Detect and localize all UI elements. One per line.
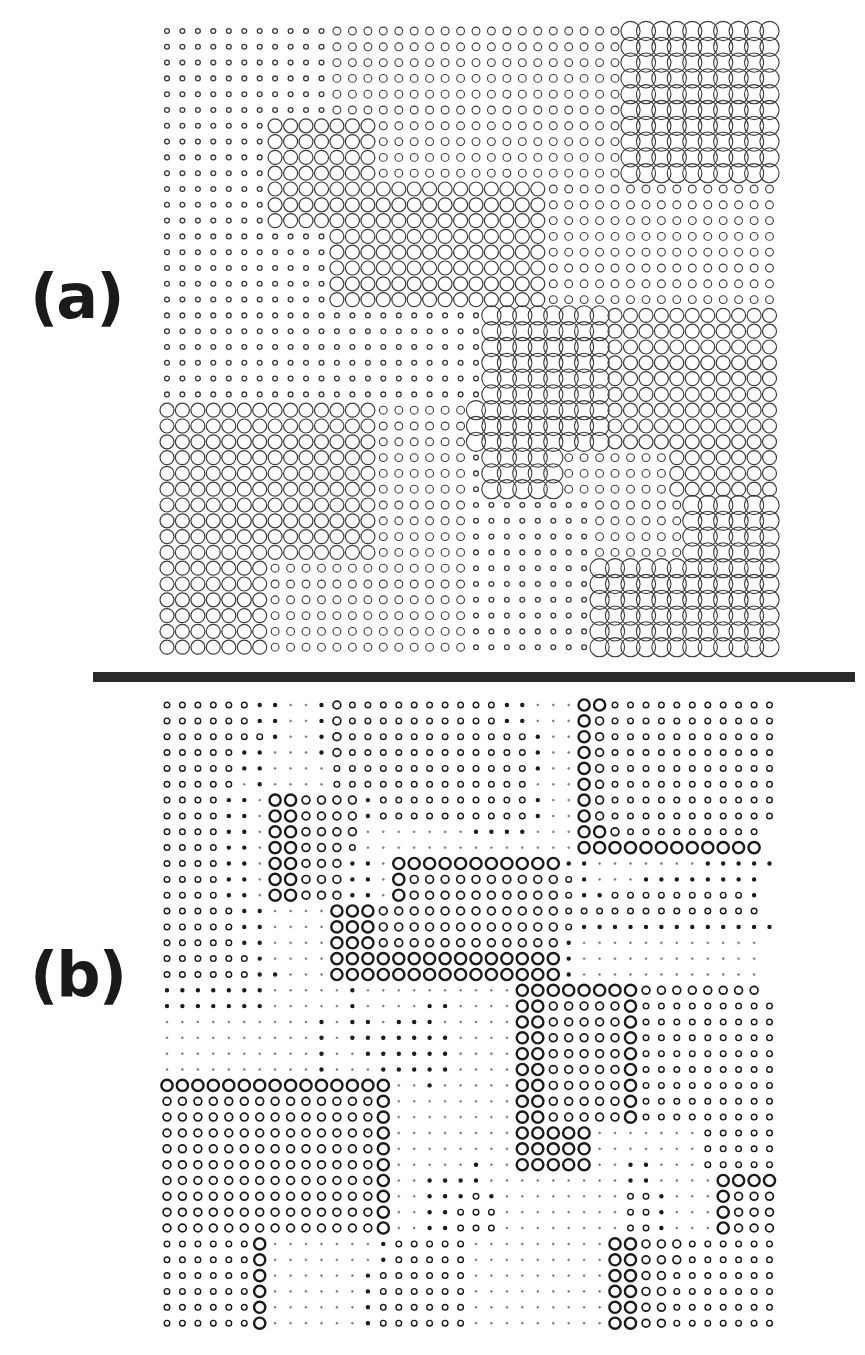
grid-circle <box>537 847 539 849</box>
grid-circle <box>474 629 479 634</box>
grid-circle <box>271 628 279 636</box>
grid-circle <box>596 549 604 557</box>
grid-circle <box>253 403 267 417</box>
grid-circle <box>473 782 479 788</box>
grid-circle <box>751 782 757 788</box>
grid-circle <box>491 847 493 849</box>
grid-circle <box>596 1066 604 1074</box>
grid-circle <box>333 844 341 852</box>
grid-circle <box>720 750 726 756</box>
grid-circle <box>290 926 292 928</box>
grid-circle <box>351 894 354 897</box>
grid-circle <box>319 76 324 81</box>
grid-circle <box>457 59 465 67</box>
grid-circle <box>568 1211 570 1213</box>
grid-circle <box>304 313 309 318</box>
grid-circle <box>751 1019 757 1025</box>
grid-circle <box>441 923 449 931</box>
grid-circle <box>225 1097 233 1105</box>
grid-circle <box>382 894 384 896</box>
grid-circle <box>270 858 281 869</box>
grid-circle <box>288 313 293 318</box>
grid-circle <box>566 892 572 898</box>
grid-circle <box>506 1180 508 1182</box>
grid-circle <box>423 261 437 275</box>
grid-circle <box>165 360 170 365</box>
grid-circle <box>685 387 699 401</box>
grid-circle <box>537 1211 539 1213</box>
grid-circle <box>658 296 666 304</box>
grid-circle <box>580 485 588 493</box>
grid-circle <box>690 1114 696 1120</box>
grid-circle <box>704 185 712 193</box>
grid-circle <box>382 1052 385 1055</box>
grid-circle <box>491 989 493 991</box>
grid-circle <box>624 340 638 354</box>
grid-circle <box>321 942 323 944</box>
grid-circle <box>517 1080 528 1091</box>
grid-circle <box>690 1241 696 1247</box>
grid-circle <box>736 1257 742 1263</box>
grid-circle <box>211 782 217 788</box>
grid-circle <box>164 1273 170 1279</box>
grid-circle <box>643 892 649 898</box>
grid-circle <box>506 1243 508 1245</box>
grid-circle <box>491 1037 493 1039</box>
grid-circle <box>273 392 278 397</box>
grid-circle <box>240 1097 248 1105</box>
grid-circle <box>685 419 699 433</box>
grid-circle <box>614 1132 616 1134</box>
grid-circle <box>438 229 452 243</box>
grid-circle <box>395 454 403 462</box>
grid-circle <box>472 90 480 98</box>
grid-circle <box>611 1097 619 1105</box>
grid-circle <box>227 1005 230 1008</box>
grid-circle <box>644 925 647 928</box>
grid-circle <box>659 702 665 708</box>
grid-circle <box>427 1305 433 1311</box>
grid-circle <box>426 517 434 525</box>
grid-circle <box>599 1322 601 1324</box>
grid-circle <box>469 293 483 307</box>
grid-circle <box>475 1306 477 1308</box>
grid-circle <box>736 1241 742 1247</box>
grid-circle <box>179 1129 187 1137</box>
grid-circle <box>347 921 358 932</box>
grid-circle <box>475 1021 477 1023</box>
grid-circle <box>345 150 359 164</box>
grid-circle <box>195 877 201 883</box>
grid-circle <box>237 514 251 528</box>
grid-circle <box>195 718 201 724</box>
grid-circle <box>537 1275 539 1277</box>
grid-circle <box>237 593 251 607</box>
grid-circle <box>381 1289 387 1295</box>
grid-circle <box>226 1289 232 1295</box>
grid-circle <box>738 942 740 944</box>
grid-circle <box>688 280 696 288</box>
grid-circle <box>520 566 525 571</box>
grid-circle <box>379 580 387 588</box>
grid-circle <box>767 1083 773 1089</box>
grid-circle <box>685 466 699 480</box>
grid-circle <box>691 925 694 928</box>
grid-circle <box>611 280 619 288</box>
grid-circle <box>382 879 384 881</box>
grid-circle <box>457 43 465 51</box>
grid-circle <box>472 122 480 130</box>
grid-circle <box>413 1068 416 1071</box>
grid-circle <box>299 451 313 465</box>
grid-circle <box>642 470 650 478</box>
grid-circle <box>642 986 650 994</box>
grid-circle <box>442 1305 448 1311</box>
grid-circle <box>549 154 557 162</box>
grid-circle <box>705 829 711 835</box>
grid-circle <box>379 628 387 636</box>
grid-circle <box>398 847 400 849</box>
grid-circle <box>738 958 740 960</box>
grid-circle <box>175 451 189 465</box>
grid-circle <box>521 1306 523 1308</box>
grid-circle <box>628 702 634 708</box>
grid-circle <box>489 582 494 587</box>
grid-circle <box>411 797 417 803</box>
grid-circle <box>489 702 495 708</box>
